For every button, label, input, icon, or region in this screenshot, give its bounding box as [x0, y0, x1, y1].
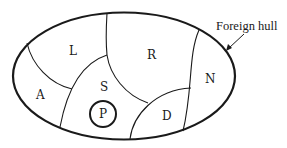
- boundary-n: [183, 30, 199, 131]
- hull-diagram: L R A S N D P Foreign hull: [0, 0, 287, 148]
- region-label-p: P: [99, 107, 107, 121]
- boundary-r-s: [107, 55, 148, 103]
- region-label-l: L: [69, 44, 77, 58]
- region-label-a: A: [35, 88, 45, 102]
- region-label-n: N: [205, 72, 216, 86]
- arrow-head-icon: [226, 44, 232, 51]
- boundary-l-a: [27, 43, 72, 89]
- region-label-r: R: [147, 48, 157, 62]
- region-label-s: S: [100, 80, 108, 94]
- hull-annotation-label: Foreign hull: [216, 19, 278, 33]
- boundary-l-r: [106, 13, 107, 55]
- hull-annotation-arrow-shaft: [229, 34, 244, 48]
- region-label-d: D: [162, 109, 172, 123]
